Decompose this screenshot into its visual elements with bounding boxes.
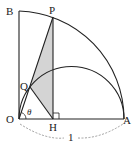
label-o: O: [6, 113, 14, 125]
label-theta: θ: [27, 107, 32, 117]
label-p: P: [49, 4, 55, 16]
label-h: H: [49, 121, 57, 133]
angle-arc-theta: [21, 113, 26, 120]
label-b: B: [6, 5, 13, 17]
dimension-arc-left: [20, 124, 64, 138]
label-radius: 1: [68, 131, 74, 143]
right-angle-marker: [53, 113, 59, 119]
dimension-arc-right: [78, 124, 123, 138]
quarter-arc-ab: [19, 11, 124, 119]
label-q: Q: [20, 80, 28, 92]
geometry-diagram: B P Q O H A θ 1: [0, 0, 138, 149]
label-a: A: [123, 114, 131, 126]
